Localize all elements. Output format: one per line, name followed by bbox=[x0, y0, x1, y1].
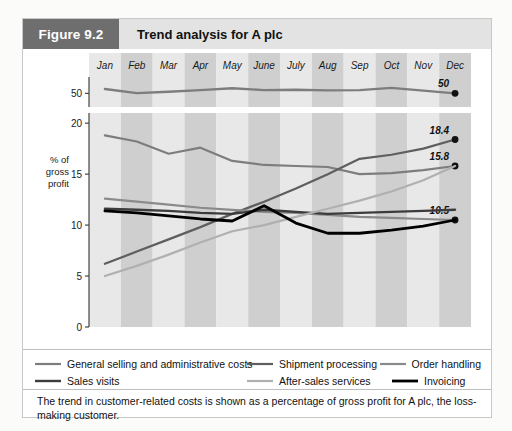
y-tick-label: 10 bbox=[71, 220, 83, 231]
legend-item-sales-visits: Sales visits bbox=[35, 375, 247, 387]
y-tick-label: 50 bbox=[71, 88, 83, 99]
legend-label: After-sales services bbox=[279, 375, 371, 387]
legend-item-after-sales-services: After-sales services bbox=[247, 375, 392, 387]
legend-swatch-icon bbox=[247, 359, 273, 369]
figure-container: Figure 9.2 Trend analysis for A plc JanF… bbox=[22, 18, 492, 418]
legend-label: Shipment processing bbox=[279, 358, 377, 370]
legend-label: Order handling bbox=[412, 358, 481, 370]
y-tick-label: 15 bbox=[71, 169, 83, 180]
legend-label: Sales visits bbox=[67, 375, 120, 387]
figure-number-badge: Figure 9.2 bbox=[23, 19, 119, 49]
figure-caption: The trend in customer-related costs is s… bbox=[23, 389, 491, 419]
chart-svg-wrapper: JanFebMarAprMayJuneJulyAugSepOctNovDec50… bbox=[23, 49, 491, 349]
legend-label: General selling and administrative costs bbox=[67, 358, 253, 370]
month-label: Oct bbox=[384, 60, 401, 71]
main-panel-y-ticks: 05101520 bbox=[71, 118, 89, 333]
month-label: Sep bbox=[351, 60, 369, 71]
screenshot-root: Figure 9.2 Trend analysis for A plc JanF… bbox=[0, 0, 512, 431]
month-label: Jan bbox=[96, 60, 114, 71]
legend-item-general-selling: General selling and administrative costs bbox=[35, 358, 247, 370]
figure-title: Trend analysis for A plc bbox=[119, 19, 491, 49]
y-axis-title-line: % of bbox=[50, 154, 69, 165]
legend-item-invoicing: Invoicing bbox=[392, 375, 481, 387]
legend-row-2: Sales visits After-sales services Invoic… bbox=[35, 373, 481, 388]
month-label: Aug bbox=[318, 60, 337, 71]
series-endpoint-marker bbox=[452, 90, 459, 97]
month-label: Apr bbox=[192, 60, 209, 71]
legend-label: Invoicing bbox=[424, 375, 465, 387]
top-panel-y-ticks: 50 bbox=[71, 88, 89, 99]
y-tick-label: 20 bbox=[71, 118, 83, 129]
month-label: Dec bbox=[446, 60, 464, 71]
y-axis-title-line: gross bbox=[46, 166, 69, 177]
legend-item-order-handling: Order handling bbox=[380, 358, 481, 370]
legend-row-1: General selling and administrative costs… bbox=[35, 356, 481, 371]
legend-item-shipment-processing: Shipment processing bbox=[247, 358, 380, 370]
series-end-value-label: 15.8 bbox=[430, 151, 450, 162]
series-end-value-label: 50 bbox=[438, 78, 450, 89]
y-tick-label: 5 bbox=[76, 271, 82, 282]
series-end-value-label: 18.4 bbox=[430, 125, 450, 136]
month-label: July bbox=[286, 60, 306, 71]
month-label: Nov bbox=[414, 60, 433, 71]
chart-legend: General selling and administrative costs… bbox=[23, 349, 491, 389]
legend-swatch-icon bbox=[35, 359, 61, 369]
legend-swatch-icon bbox=[380, 359, 406, 369]
legend-swatch-icon bbox=[35, 376, 61, 386]
caption-line-1: The trend in customer-related costs is s… bbox=[37, 395, 434, 407]
y-axis-title-line: profit bbox=[48, 178, 69, 189]
month-label: Feb bbox=[128, 60, 146, 71]
month-label: June bbox=[252, 60, 275, 71]
month-label: Mar bbox=[160, 60, 178, 71]
trend-line-chart: JanFebMarAprMayJuneJulyAugSepOctNovDec50… bbox=[23, 49, 493, 349]
y-axis-title: % ofgrossprofit bbox=[46, 154, 70, 189]
chart-area: JanFebMarAprMayJuneJulyAugSepOctNovDec50… bbox=[23, 49, 491, 349]
figure-header: Figure 9.2 Trend analysis for A plc bbox=[23, 19, 491, 49]
month-label: May bbox=[223, 60, 243, 71]
y-tick-label: 0 bbox=[76, 322, 82, 333]
legend-swatch-icon bbox=[392, 376, 418, 386]
legend-swatch-icon bbox=[247, 376, 273, 386]
series-endpoint-marker bbox=[452, 136, 459, 143]
